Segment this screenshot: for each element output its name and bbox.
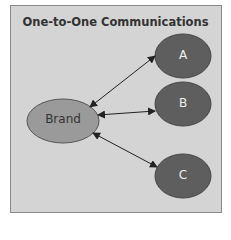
arrow-brand-a	[90, 56, 155, 107]
arrow-brand-b	[98, 111, 155, 115]
node-c-label: C	[155, 168, 211, 182]
node-b-label: B	[155, 96, 211, 110]
brand-label: Brand	[27, 112, 99, 126]
node-a-label: A	[155, 48, 211, 62]
arrow-brand-c	[93, 133, 157, 167]
